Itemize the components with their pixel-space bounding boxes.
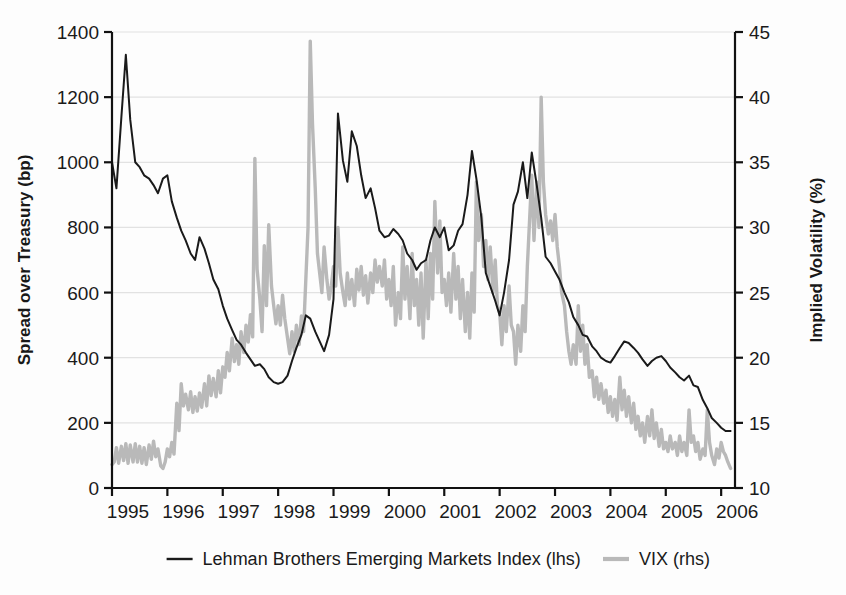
y-left-axis-title: Spread over Treasury (bp) [15,155,34,366]
x-tick-label: 1996 [162,501,204,522]
legend-label-vix: VIX (rhs) [639,549,710,569]
y-left-tick-label: 400 [67,348,99,369]
x-tick-label: 2003 [550,501,592,522]
plot-series [112,41,731,468]
y-left-tick-label: 1400 [57,22,99,43]
chart-legend: Lehman Brothers Emerging Markets Index (… [167,549,710,569]
x-tick-label: 2002 [495,501,537,522]
series-line-vix [112,41,731,468]
y-right-tick-label: 40 [749,87,770,108]
y-left-tick-label: 1000 [57,152,99,173]
y-left-tick-label: 800 [67,217,99,238]
x-tick-label: 1999 [328,501,370,522]
y-right-tick-label: 45 [749,22,770,43]
series-line-lehman [112,55,731,431]
x-tick-label: 2000 [384,501,426,522]
x-tick-label: 2004 [605,501,648,522]
x-tick-label: 2005 [661,501,703,522]
axis-titles: Spread over Treasury (bp)Implied Volatil… [15,155,826,366]
x-tick-label: 1998 [273,501,315,522]
y-right-tick-label: 25 [749,283,770,304]
chart-figure: 0200400600800100012001400101520253035404… [0,0,846,595]
y-right-tick-label: 10 [749,478,770,499]
dual-axis-line-chart: 0200400600800100012001400101520253035404… [0,0,846,595]
y-right-tick-label: 15 [749,413,770,434]
x-tick-label: 1995 [107,501,149,522]
y-left-tick-label: 200 [67,413,99,434]
y-left-tick-label: 1200 [57,87,99,108]
y-right-tick-label: 35 [749,152,770,173]
y-right-tick-label: 30 [749,217,770,238]
x-tick-label: 1997 [218,501,260,522]
y-right-tick-label: 20 [749,348,770,369]
x-tick-label: 2006 [716,501,758,522]
y-left-tick-label: 600 [67,283,99,304]
grid-lines [112,32,735,423]
y-left-tick-label: 0 [88,478,99,499]
y-right-axis-title: Implied Volatility (%) [807,178,826,343]
x-tick-label: 2001 [439,501,481,522]
legend-label-lehman: Lehman Brothers Emerging Markets Index (… [203,549,581,569]
